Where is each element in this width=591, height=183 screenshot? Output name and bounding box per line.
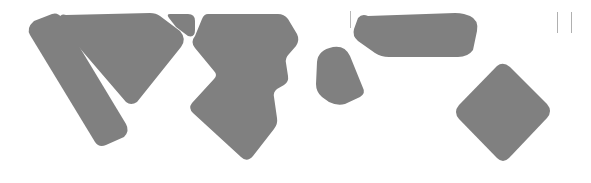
masked-shape-canvas [0,0,591,183]
shape-canvas-svg [0,0,591,183]
horizontal-tapered-bar [354,13,478,57]
